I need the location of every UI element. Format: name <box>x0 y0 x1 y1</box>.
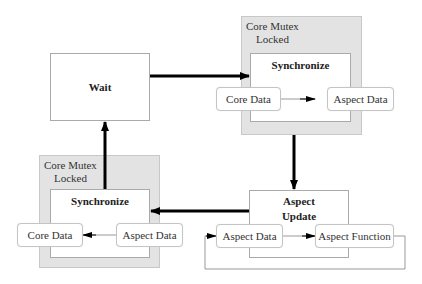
aspect-data-pill-top[interactable]: Aspect Data <box>327 87 394 111</box>
aspect-data-pill-update[interactable]: Aspect Data <box>216 224 283 248</box>
core-data-pill-top[interactable]: Core Data <box>216 87 281 111</box>
core-data-pill-bottom[interactable]: Core Data <box>17 223 83 247</box>
aspect-data-pill-bottom[interactable]: Aspect Data <box>116 223 183 247</box>
aspect-function-pill[interactable]: Aspect Function <box>315 224 394 248</box>
